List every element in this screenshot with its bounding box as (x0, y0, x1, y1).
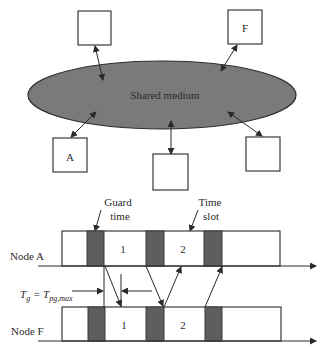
time-slot-pointer (190, 210, 198, 231)
shared-medium-label: Shared medium (130, 89, 200, 101)
node-f-guard-1 (88, 307, 105, 341)
tdma-diagram: Shared medium F A Guard time Time slot N… (0, 0, 326, 355)
node-a-guard-1 (87, 231, 104, 266)
node-f-label: F (242, 22, 248, 34)
node-box-bottom-center (153, 154, 188, 190)
node-f-row: Node F 1 2 (11, 307, 316, 341)
node-a-label: A (66, 151, 74, 163)
guard-time-label-line1: Guard (104, 196, 132, 208)
node-box-right (246, 137, 280, 171)
node-box-top-left (78, 11, 111, 45)
propagation-arrow-f-to-a-2 (205, 267, 222, 307)
time-slot-label-line1: Time (199, 196, 222, 208)
node-a-slot-1: 1 (120, 243, 126, 255)
node-a-slot-2: 2 (180, 243, 186, 255)
node-f-row-label: Node F (11, 325, 44, 337)
propagation-arrow-a-to-f-2 (146, 266, 163, 306)
node-f-guard-3 (205, 307, 222, 341)
node-a-row-label: Node A (10, 250, 44, 262)
guard-time-pointer (95, 210, 101, 231)
time-slot-label-line2: slot (203, 210, 219, 222)
tg-equation: Tg = Tpg,max (20, 288, 73, 303)
node-a-guard-2 (146, 231, 164, 266)
network-topology: Shared medium F A (28, 10, 296, 190)
node-a-guard-3 (204, 231, 222, 266)
timing-diagram: Guard time Time slot Node A 1 2 Node F 1… (10, 196, 316, 341)
propagation-arrow-f-to-a-1 (164, 267, 181, 307)
node-f-slot-2: 2 (180, 319, 186, 331)
propagation-arrow-a-to-f-1 (105, 266, 121, 306)
node-f-slot-1: 1 (121, 319, 127, 331)
guard-time-label-line2: time (110, 210, 130, 222)
node-f-guard-2 (146, 307, 164, 341)
node-a-row: Node A 1 2 (10, 231, 316, 266)
